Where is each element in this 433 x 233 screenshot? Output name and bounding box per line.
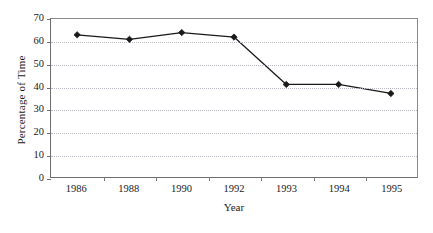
x-axis-tick-mark	[104, 177, 105, 181]
x-axis-tick-label: 1988	[118, 182, 139, 195]
x-axis-tick-label: 1993	[276, 182, 297, 195]
x-axis-tick-mark	[261, 177, 262, 181]
gridline	[51, 65, 417, 66]
y-axis-tick-label: 50	[18, 59, 44, 69]
gridline	[51, 88, 417, 89]
y-axis-tick-mark	[47, 88, 51, 89]
gridline	[51, 156, 417, 157]
y-axis-tick-label: 20	[18, 127, 44, 137]
data-point-marker	[388, 90, 394, 96]
x-axis-title: Year	[50, 201, 418, 214]
y-axis-tick-label: 10	[18, 150, 44, 160]
x-axis-tick-label: 1994	[329, 182, 350, 195]
y-axis-tick-label: 40	[18, 82, 44, 92]
x-axis-tick-mark	[156, 177, 157, 181]
data-point-marker	[179, 29, 185, 35]
x-axis-tick-mark	[209, 177, 210, 181]
x-axis-tick-label: 1995	[381, 182, 402, 195]
y-axis-tick-mark	[47, 19, 51, 20]
x-axis-tick-label: 1986	[66, 182, 87, 195]
y-axis-tick-mark	[47, 42, 51, 43]
y-axis-tick-label: 70	[18, 13, 44, 23]
y-axis-tick-mark	[47, 133, 51, 134]
y-axis-tick-labels: 010203040506070	[18, 0, 44, 233]
x-axis-tick-mark	[314, 177, 315, 181]
y-axis-tick-mark	[47, 156, 51, 157]
y-axis-tick-label: 30	[18, 104, 44, 114]
y-axis-tick-label: 0	[18, 173, 44, 183]
chart-figure: Percentage of Time 010203040506070 19861…	[0, 0, 433, 233]
y-axis-tick-mark	[47, 110, 51, 111]
x-axis-tick-label: 1992	[224, 182, 245, 195]
x-axis-tick-mark	[366, 177, 367, 181]
gridline	[51, 110, 417, 111]
gridline	[51, 133, 417, 134]
gridline	[51, 42, 417, 43]
plot-area	[50, 18, 418, 178]
x-axis-tick-label: 1990	[171, 182, 192, 195]
y-axis-tick-mark	[47, 65, 51, 66]
x-axis-tick-labels: 1986198819901992199319941995	[50, 182, 418, 198]
y-axis-tick-mark	[47, 179, 51, 180]
y-axis-tick-label: 60	[18, 36, 44, 46]
data-point-marker	[74, 32, 80, 38]
